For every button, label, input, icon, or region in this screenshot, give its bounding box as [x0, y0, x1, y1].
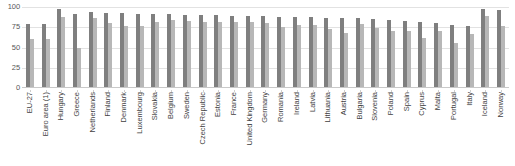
- bar-group: [163, 7, 179, 88]
- bar-group: [415, 7, 431, 88]
- x-axis-tick-label: Malta: [434, 92, 442, 110]
- bar-group: [320, 7, 336, 88]
- bar: [360, 24, 364, 88]
- x-axis-tick-label: Hungary: [57, 92, 65, 120]
- bar: [454, 43, 458, 88]
- bar-series-container: [22, 7, 509, 88]
- x-axis-tick: Malta: [430, 90, 446, 166]
- bar-group: [242, 7, 258, 88]
- x-axis-tick-label: Slovakia: [151, 92, 159, 120]
- bar: [187, 21, 191, 88]
- x-axis-tick-label: EU-27: [26, 92, 34, 113]
- y-axis-tick-label: 50: [0, 44, 20, 52]
- bar-group: [69, 7, 85, 88]
- bar-group: [195, 7, 211, 88]
- bar-group: [477, 7, 493, 88]
- x-axis-category-labels: EU-27Euro area (1)HungaryGreeceNetherlan…: [22, 90, 509, 166]
- bar: [93, 18, 97, 88]
- x-axis-tick: Ireland: [289, 90, 305, 166]
- x-axis-tick: Cyprus: [415, 90, 431, 166]
- bar: [46, 39, 50, 88]
- x-axis-tick-label: United Kingdom: [246, 92, 254, 145]
- bar: [265, 23, 269, 88]
- x-axis-tick: EU-27: [22, 90, 38, 166]
- x-axis-tick: Slovakia: [148, 90, 164, 166]
- x-axis-tick: Finland: [101, 90, 117, 166]
- x-axis-tick-label: Denmark: [120, 92, 128, 122]
- bar: [77, 48, 81, 88]
- x-axis-tick-label: Romania: [277, 92, 285, 122]
- chart-figure: 0255075100 EU-27Euro area (1)HungaryGree…: [0, 0, 515, 166]
- bar-group: [399, 7, 415, 88]
- x-axis-baseline: [22, 87, 509, 88]
- x-axis-tick-label: Netherlands: [89, 92, 97, 132]
- bar-group: [210, 7, 226, 88]
- bar: [344, 33, 348, 88]
- x-axis-tick-label: France: [230, 92, 238, 115]
- bar-group: [352, 7, 368, 88]
- bar: [313, 25, 317, 88]
- x-axis-tick-label: Czech Republic: [199, 92, 207, 145]
- bar: [470, 34, 474, 88]
- x-axis-tick-label: Norway: [497, 92, 505, 117]
- y-axis: 0255075100: [0, 0, 20, 95]
- x-axis-tick: Austria: [336, 90, 352, 166]
- x-axis-tick: Iceland: [477, 90, 493, 166]
- bar: [155, 22, 159, 88]
- x-axis-tick: Belgium: [163, 90, 179, 166]
- x-axis-tick: Czech Republic: [195, 90, 211, 166]
- x-axis-tick-label: Iceland: [481, 92, 489, 116]
- bar: [501, 26, 505, 88]
- bar: [108, 23, 112, 88]
- x-axis-tick-label: Bulgaria: [356, 92, 364, 120]
- bar: [485, 16, 489, 88]
- x-axis-tick: Spain: [399, 90, 415, 166]
- y-axis-tick-label: 100: [0, 3, 20, 11]
- x-axis-tick: Italy: [462, 90, 478, 166]
- bar: [124, 26, 128, 88]
- x-axis-tick: Bulgaria: [352, 90, 368, 166]
- bar-group: [446, 7, 462, 88]
- x-axis-tick: Romania: [273, 90, 289, 166]
- bar-group: [430, 7, 446, 88]
- bar-group: [116, 7, 132, 88]
- x-axis-tick: Lithuania: [320, 90, 336, 166]
- x-axis-tick-label: Finland: [104, 92, 112, 117]
- x-axis-tick: Estonia: [210, 90, 226, 166]
- x-axis-tick: Greece: [69, 90, 85, 166]
- bar-group: [38, 7, 54, 88]
- x-axis-tick-label: Portugal: [450, 92, 458, 120]
- x-axis-tick: Hungary: [53, 90, 69, 166]
- bar: [250, 22, 254, 88]
- bar-group: [22, 7, 38, 88]
- x-axis-tick-label: Estonia: [214, 92, 222, 117]
- x-axis-tick: United Kingdom: [242, 90, 258, 166]
- bar: [422, 38, 426, 88]
- x-axis-tick-label: Euro area (1): [42, 92, 50, 136]
- bar: [140, 26, 144, 88]
- x-axis-tick: Luxembourg: [132, 90, 148, 166]
- x-axis-tick: Germany: [258, 90, 274, 166]
- bar: [391, 31, 395, 89]
- bar-group: [53, 7, 69, 88]
- bar: [30, 39, 34, 88]
- bar-group: [493, 7, 509, 88]
- bar: [234, 22, 238, 88]
- bar-group: [132, 7, 148, 88]
- x-axis-tick: Slovenia: [367, 90, 383, 166]
- bar-group: [226, 7, 242, 88]
- bar: [171, 20, 175, 88]
- x-axis-tick: Norway: [493, 90, 509, 166]
- bar: [375, 28, 379, 88]
- bar-group: [305, 7, 321, 88]
- bar: [61, 17, 65, 88]
- bar: [297, 25, 301, 88]
- y-axis-tick-label: 75: [0, 23, 20, 31]
- x-axis-tick-label: Luxembourg: [136, 92, 144, 134]
- x-axis-tick-label: Sweden: [183, 92, 191, 119]
- x-axis-tick: Latvia: [305, 90, 321, 166]
- x-axis-tick-label: Austria: [340, 92, 348, 115]
- x-axis-tick: Sweden: [179, 90, 195, 166]
- bar: [438, 31, 442, 89]
- bar-group: [179, 7, 195, 88]
